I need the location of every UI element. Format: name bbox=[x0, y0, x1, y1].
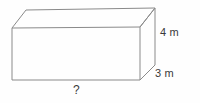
prism-figure: 4 m 3 m ? bbox=[0, 0, 200, 103]
prism-right-face bbox=[140, 8, 155, 80]
prism-drawing bbox=[0, 0, 200, 103]
unknown-length-label: ? bbox=[73, 84, 80, 96]
prism-top-face bbox=[12, 8, 155, 28]
height-label: 4 m bbox=[160, 27, 179, 38]
depth-label: 3 m bbox=[155, 68, 174, 79]
prism-front-face bbox=[12, 27, 140, 80]
